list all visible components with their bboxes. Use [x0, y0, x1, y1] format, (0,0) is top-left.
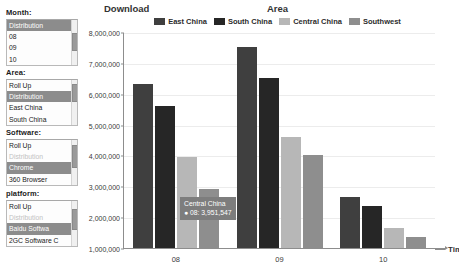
x-axis-tick-label: 10 — [379, 255, 387, 264]
list-item[interactable]: 360 Browser — [7, 174, 77, 185]
list-item[interactable]: Roll Up — [7, 140, 77, 151]
legend-swatch-icon — [279, 18, 290, 25]
list-item[interactable]: Distribution — [7, 91, 77, 102]
data-tooltip: Central China● 08: 3,951,547 — [180, 197, 236, 220]
x-axis-arrow — [435, 248, 445, 250]
legend-item[interactable]: South China — [214, 17, 272, 26]
bar[interactable] — [281, 137, 301, 248]
list-item[interactable]: 2GC Software C — [7, 235, 77, 246]
plot-area: Time 8,000,0007,000,0006,000,0005,000,00… — [123, 33, 435, 249]
filter-sidebar: Month:Distribution080910Area:Roll UpDist… — [0, 0, 96, 272]
x-axis-tick-label: 08 — [172, 255, 180, 264]
filter-listbox[interactable]: Distribution080910 — [6, 19, 78, 66]
bar[interactable] — [259, 78, 279, 248]
list-item[interactable]: East China — [7, 102, 77, 113]
y-axis-tick-label: 5,000,000 — [78, 122, 124, 129]
list-item: Distribution — [7, 212, 77, 223]
legend-label: Southwest — [363, 17, 401, 26]
legend-label: East China — [168, 17, 207, 26]
y-axis-tick-label: 3,000,000 — [78, 184, 124, 191]
list-item[interactable]: 09 — [7, 42, 77, 53]
bar[interactable] — [133, 84, 153, 248]
bar-group — [228, 33, 332, 248]
legend-label: South China — [228, 17, 272, 26]
x-axis-label: Time — [448, 245, 459, 254]
y-axis-tick-label: 7,000,000 — [78, 60, 124, 67]
list-item[interactable]: Roll Up — [7, 80, 77, 91]
list-item[interactable]: Distribution — [7, 20, 77, 31]
listbox-scrollbar[interactable] — [71, 20, 77, 65]
listbox-scrollbar[interactable] — [71, 201, 77, 246]
bar[interactable] — [362, 206, 382, 248]
y-axis-tick-label: 4,000,000 — [78, 153, 124, 160]
legend-item[interactable]: Central China — [279, 17, 342, 26]
y-axis-tick-label: 1,000,000 — [78, 246, 124, 253]
filter-group-month: Month:Distribution080910 — [6, 8, 92, 66]
bar-groups — [124, 33, 435, 248]
tooltip-value: ● 08: 3,951,547 — [184, 208, 232, 217]
y-axis-tick-label: 8,000,000 — [78, 30, 124, 37]
y-axis-tick-label: 6,000,000 — [78, 91, 124, 98]
list-item[interactable]: Baidu Softwa — [7, 223, 77, 234]
bar[interactable] — [406, 237, 426, 248]
filter-listbox[interactable]: Roll UpDistributionEast ChinaSouth China — [6, 79, 78, 126]
list-item[interactable]: 08 — [7, 31, 77, 42]
list-item[interactable]: Chrome — [7, 162, 77, 173]
bar[interactable] — [237, 47, 257, 248]
legend-item[interactable]: East China — [154, 17, 207, 26]
y-axis-tick-label: 2,000,000 — [78, 215, 124, 222]
chart-panel: Download Area East ChinaSouth ChinaCentr… — [96, 0, 459, 272]
legend-swatch-icon — [214, 18, 225, 25]
list-item: Distribution — [7, 151, 77, 162]
legend-label: Central China — [293, 17, 342, 26]
chart-legend: East ChinaSouth ChinaCentral ChinaSouthw… — [96, 17, 459, 26]
list-item[interactable]: Roll Up — [7, 201, 77, 212]
legend-swatch-icon — [154, 18, 165, 25]
listbox-scrollbar[interactable] — [71, 140, 77, 185]
legend-item[interactable]: Southwest — [349, 17, 401, 26]
filter-listbox[interactable]: Roll UpDistributionBaidu Softwa2GC Softw… — [6, 200, 78, 247]
legend-title: Area — [96, 3, 459, 14]
list-item[interactable]: 10 — [7, 54, 77, 65]
bar[interactable] — [384, 228, 404, 248]
filter-listbox[interactable]: Roll UpDistributionChrome360 Browser — [6, 139, 78, 186]
bar[interactable] — [340, 197, 360, 248]
filter-group-label: Month: — [6, 8, 92, 17]
filter-group-label: Software: — [6, 128, 92, 137]
filter-group-label: Area: — [6, 68, 92, 77]
chart-dashboard: Month:Distribution080910Area:Roll UpDist… — [0, 0, 459, 272]
legend-swatch-icon — [349, 18, 360, 25]
tooltip-title: Central China — [184, 199, 232, 208]
list-item[interactable]: South China — [7, 114, 77, 125]
bar[interactable] — [155, 106, 175, 248]
listbox-scrollbar[interactable] — [71, 80, 77, 125]
bar-group — [331, 33, 435, 248]
x-axis-tick-label: 09 — [275, 255, 283, 264]
bar[interactable] — [303, 155, 323, 248]
